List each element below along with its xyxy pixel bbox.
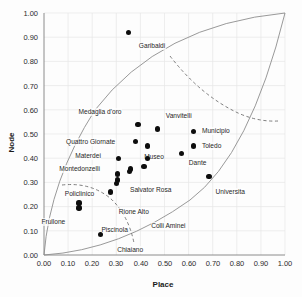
point-label: Materdei [75,152,102,160]
y-tick-0.60: 0.60 [12,106,38,115]
point-label: Piscinola [101,226,128,234]
x-tick-0.80: 0.80 [224,259,250,268]
point-label: Medaglia d'oro [78,108,122,116]
point-label: Chiaiano [117,246,144,254]
point-label: Policlinico [64,190,94,198]
point-label: Colli Aminei [151,222,186,230]
point-label: Salvator Rosa [130,186,172,194]
data-point [155,126,160,131]
data-point [135,122,140,127]
data-point [108,189,113,194]
y-tick-0.10: 0.10 [12,227,38,236]
data-point [76,205,81,210]
x-tick-0.60: 0.60 [176,259,202,268]
point-label: Dante [188,159,207,167]
y-tick-1.00: 1.00 [12,9,38,18]
x-tick-0.90: 0.90 [248,259,274,268]
point-label: Frullone [41,218,66,226]
point-label: Quattro Giornate [66,138,116,146]
point-label: Universita [215,188,245,196]
data-point [206,174,211,179]
y-tick-0.40: 0.40 [12,154,38,163]
point-label: Municipio [201,127,230,135]
data-point [179,151,184,156]
scatter-chart: 1.00 0.90 0.80 0.70 0.60 0.50 0.40 0.30 … [0,0,302,297]
data-point [126,30,131,35]
x-tick-0.30: 0.30 [103,259,129,268]
y-tick-0.90: 0.90 [12,33,38,42]
y-axis-title: Node [7,123,16,163]
x-axis-title: Place [123,280,203,289]
point-label: Montedonzelli [59,165,101,173]
x-tick-0.70: 0.70 [200,259,226,268]
y-tick-0.20: 0.20 [12,202,38,211]
x-tick-0.10: 0.10 [55,259,81,268]
y-tick-0.80: 0.80 [12,57,38,66]
y-tick-0.50: 0.50 [12,130,38,139]
x-tick-0.50: 0.50 [152,259,178,268]
data-point [145,143,150,148]
data-point [141,164,146,169]
x-tick-1.00: 1.00 [272,259,298,268]
y-tick-0.70: 0.70 [12,82,38,91]
point-label: Toledo [201,142,221,150]
point-label: Garibaldi [138,42,165,50]
x-tick-0.40: 0.40 [128,259,154,268]
data-point [191,143,196,148]
data-point [115,177,120,182]
data-point [115,171,120,176]
x-tick-0.20: 0.20 [79,259,105,268]
point-label: Vanvitelli [165,112,192,120]
point-label: Rione Alto [118,208,149,216]
y-tick-0.30: 0.30 [12,178,38,187]
x-tick-0.00: 0.00 [31,259,57,268]
